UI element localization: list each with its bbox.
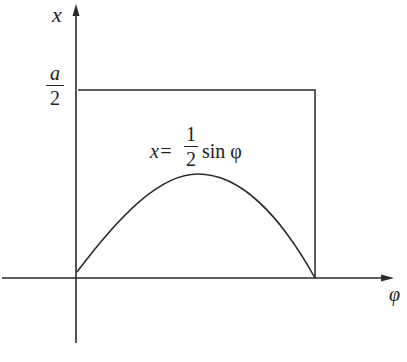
x-axis-arrow-icon [381, 275, 394, 282]
y-axis-arrow-icon [73, 4, 80, 16]
diagram-canvas [0, 0, 407, 362]
y-tick-denominator: 2 [50, 88, 60, 108]
equation-fraction: 1 2 [184, 124, 198, 169]
fraction-bar [46, 85, 64, 86]
equation-denominator: 2 [186, 149, 196, 169]
y-axis-label: x [52, 2, 62, 28]
y-tick-numerator: a [50, 63, 60, 83]
equation-numerator: 1 [186, 124, 196, 144]
y-tick-a-over-2: a 2 [46, 63, 64, 108]
fraction-bar [184, 146, 198, 147]
x-axis-label: φ [389, 283, 400, 306]
equation-rhs: sin φ [202, 140, 242, 163]
bounding-rectangle [78, 90, 315, 278]
sine-curve [77, 174, 315, 278]
equation-lhs: x= [150, 140, 172, 163]
curve-equation: x= 1 2 sin φ [150, 120, 280, 180]
